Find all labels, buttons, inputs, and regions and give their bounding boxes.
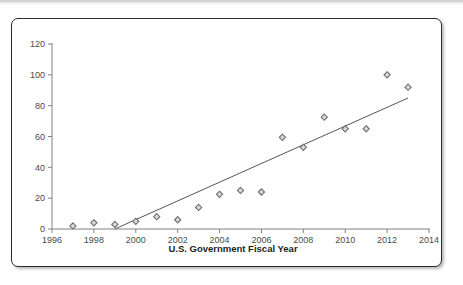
data-point-marker <box>154 214 160 220</box>
data-point-marker <box>363 126 369 132</box>
data-point-marker <box>91 220 97 226</box>
data-point-marker <box>196 204 202 210</box>
x-axis-tick-label: 2000 <box>126 235 146 245</box>
x-axis-title: U.S. Government Fiscal Year <box>168 243 297 254</box>
x-axis-tick-label: 2010 <box>335 235 355 245</box>
y-axis-tick-label: 60 <box>35 132 45 142</box>
data-point-marker <box>321 114 327 120</box>
trendline-segment <box>115 98 408 229</box>
data-point-marker <box>405 84 411 90</box>
y-axis-tick-label: 40 <box>35 163 45 173</box>
y-axis-tick-label: 80 <box>35 101 45 111</box>
y-axis: 020406080100120 <box>30 39 52 234</box>
data-point-marker <box>279 134 285 140</box>
data-point-marker <box>175 217 181 223</box>
y-axis-tick-label: 0 <box>40 224 45 234</box>
y-axis-tick-label: 100 <box>30 70 45 80</box>
x-axis-tick-label: 1996 <box>42 235 62 245</box>
data-point-marker <box>216 191 222 197</box>
data-point-marker <box>384 72 390 78</box>
x-axis-tick-label: 1998 <box>84 235 104 245</box>
data-point-marker <box>300 144 306 150</box>
y-axis-tick-label: 20 <box>35 193 45 203</box>
data-points <box>70 72 411 229</box>
y-axis-tick-label: 120 <box>30 39 45 49</box>
x-axis-tick-label: 2014 <box>419 235 439 245</box>
x-axis-tick-label: 2012 <box>377 235 397 245</box>
trendline <box>115 98 408 229</box>
data-point-marker <box>258 189 264 195</box>
data-point-marker <box>237 187 243 193</box>
data-point-marker <box>112 221 118 227</box>
chart-canvas: 020406080100120 199619982000200220042006… <box>0 0 463 285</box>
scatter-chart: 020406080100120 199619982000200220042006… <box>0 0 463 285</box>
data-point-marker <box>70 223 76 229</box>
